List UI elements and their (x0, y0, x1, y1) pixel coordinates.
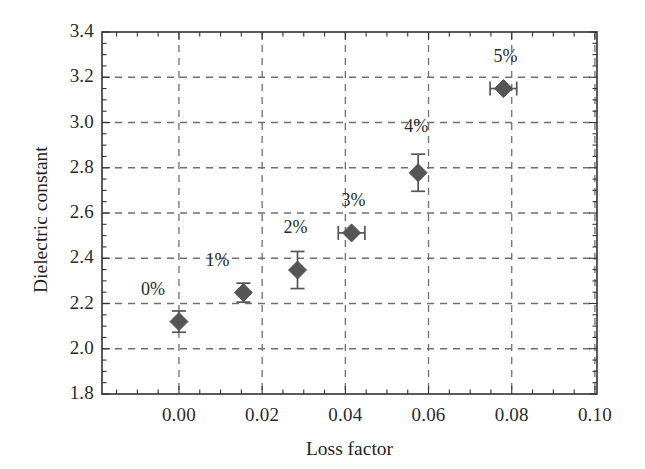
y-tick-label: 2.0 (34, 337, 94, 359)
x-tick-label: 0.10 (555, 404, 635, 426)
y-tick-label: 2.2 (34, 292, 94, 314)
data-marker-diamond (494, 80, 512, 98)
x-axis-title: Loss factor (2, 438, 645, 460)
data-point-label: 4% (391, 116, 441, 137)
figure-container: 0.000.020.040.060.080.101.82.02.22.42.62… (0, 0, 645, 469)
x-tick-label: 0.04 (305, 404, 385, 426)
y-tick-label: 1.8 (34, 382, 94, 404)
data-marker-diamond (343, 224, 361, 242)
y-axis-title: Dielectric constant (30, 146, 52, 293)
data-marker-diamond (409, 164, 427, 182)
data-marker-diamond (234, 284, 252, 302)
x-tick-label: 0.00 (139, 404, 219, 426)
y-tick-label: 3.0 (34, 111, 94, 133)
data-point-label: 1% (192, 250, 242, 271)
data-point-label: 2% (271, 217, 321, 238)
scatter-plot (0, 0, 645, 469)
y-tick-label: 3.4 (34, 20, 94, 42)
data-point-label: 5% (480, 46, 530, 67)
x-tick-label: 0.02 (222, 404, 302, 426)
y-tick-label: 3.2 (34, 65, 94, 87)
x-tick-label: 0.06 (389, 404, 469, 426)
data-marker-diamond (170, 313, 188, 331)
grid-lines (102, 32, 597, 394)
data-point-label: 0% (128, 279, 178, 300)
x-tick-label: 0.08 (472, 404, 552, 426)
data-marker-diamond (289, 261, 307, 279)
data-point-label: 3% (329, 190, 379, 211)
